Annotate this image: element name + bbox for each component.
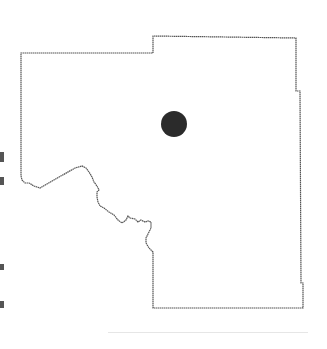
- county-outline: [21, 36, 303, 308]
- clipped-text-fragment: [0, 177, 4, 185]
- location-marker: [161, 111, 187, 137]
- clipped-text-fragment: [0, 152, 4, 162]
- clipped-text-fragment: [0, 264, 4, 270]
- divider: [108, 332, 308, 333]
- clipped-text-fragment: [0, 301, 4, 308]
- county-map: [0, 0, 327, 349]
